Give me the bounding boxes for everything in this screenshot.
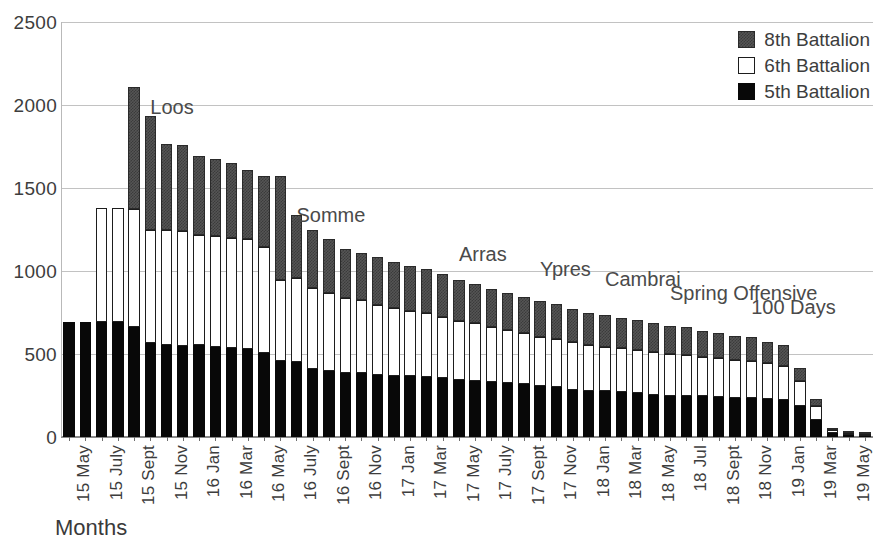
annotation-somme: Somme [296, 205, 365, 225]
battalion-strength-chart: 05001000150020002500 LoosSommeArrasYpres… [0, 0, 884, 550]
bar-segment-6th [226, 238, 237, 348]
bar-segment-8th [437, 274, 448, 316]
legend: 8th Battalion6th Battalion5th Battalion [738, 30, 870, 108]
x-axis-tick-label: 18 Mar [627, 445, 644, 499]
bar-segment-8th [778, 345, 789, 366]
bar-stack [193, 156, 204, 437]
x-axis-tick-mark [475, 437, 476, 441]
bar-segment-6th [632, 350, 643, 393]
bar-segment-8th [551, 304, 562, 339]
bar-stack [128, 87, 139, 437]
bar-segment-5th [810, 420, 821, 437]
x-axis-tick-mark [784, 437, 785, 441]
bar-segment-5th [193, 345, 204, 437]
bar-stack [746, 337, 757, 437]
bar-segment-8th [534, 301, 545, 337]
bar-segment-5th [275, 361, 286, 437]
bar-segment-6th [258, 247, 269, 353]
bar-segment-5th [80, 322, 91, 437]
x-axis: 15 May15 July15 Sept15 Nov16 Jan16 Mar16… [61, 437, 873, 547]
bar-stack [437, 274, 448, 437]
bar-segment-6th [177, 231, 188, 346]
bar-segment-6th [242, 239, 253, 349]
bar-segment-6th [794, 381, 805, 406]
x-axis-tick-label: 18 Jan [595, 445, 612, 497]
annotation-ypres: Ypres [540, 259, 591, 279]
bar-segment-6th [713, 358, 724, 397]
bar-stack [145, 116, 156, 437]
x-axis-tick-mark [361, 437, 362, 441]
x-axis-tick-mark [329, 437, 330, 441]
legend-label: 6th Battalion [764, 56, 870, 75]
y-axis-tick-label: 1500 [0, 179, 57, 198]
bar-segment-8th [258, 176, 269, 247]
bar-stack [616, 318, 627, 438]
bar-stack [275, 176, 286, 437]
annotation-100-days: 100 Days [751, 297, 836, 317]
legend-item: 5th Battalion [738, 82, 870, 101]
bar-segment-5th [534, 386, 545, 437]
bar-stack [388, 262, 399, 437]
x-axis-tick-mark [426, 437, 427, 441]
bar-segment-6th [762, 363, 773, 399]
bar-segment-5th [697, 396, 708, 437]
x-axis-tick-label: 18 May [660, 445, 677, 502]
bar-segment-5th [648, 395, 659, 437]
bar-stack [632, 320, 643, 437]
bar-segment-5th [762, 399, 773, 437]
bar-segment-6th [648, 352, 659, 394]
bar-segment-5th [161, 345, 172, 437]
bar-stack [177, 145, 188, 437]
bar-stack [226, 163, 237, 437]
bar-stack [810, 399, 821, 437]
bar-segment-6th [681, 355, 692, 396]
bar-stack [697, 331, 708, 437]
bar-stack [648, 323, 659, 437]
bar-segment-6th [616, 348, 627, 392]
bar-segment-5th [291, 362, 302, 437]
x-axis-tick-mark [232, 437, 233, 441]
x-axis-tick-mark [589, 437, 590, 441]
x-axis-tick-mark [702, 437, 703, 441]
bar-stack [80, 322, 91, 437]
bar-stack [729, 336, 740, 437]
annotation-arras: Arras [459, 244, 507, 264]
bar-segment-6th [502, 330, 513, 383]
x-axis-title: Months [55, 517, 127, 539]
bar-stack [681, 327, 692, 437]
bar-stack [63, 322, 74, 437]
x-axis-tick-label: 15 Sept [140, 445, 157, 505]
bar-segment-5th [599, 391, 610, 437]
bar-segment-6th [112, 208, 123, 323]
x-axis-tick-mark [654, 437, 655, 441]
x-axis-tick-mark [800, 437, 801, 441]
bar-segment-8th [226, 163, 237, 238]
bar-segment-8th [323, 239, 334, 292]
bar-segment-8th [453, 280, 464, 321]
x-axis-tick-mark [573, 437, 574, 441]
bar-segment-6th [729, 360, 740, 398]
legend-label: 5th Battalion [764, 82, 870, 101]
bar-segment-6th [356, 300, 367, 373]
bar-segment-5th [258, 353, 269, 437]
bar-segment-6th [323, 293, 334, 371]
x-axis-tick-label: 17 Sept [530, 445, 547, 505]
x-axis-tick-label: 19 Jan [790, 445, 807, 497]
bar-stack [307, 230, 318, 437]
bar-segment-8th [356, 253, 367, 300]
bar-stack [502, 293, 513, 437]
bar-segment-8th [307, 230, 318, 287]
x-axis-tick-label: 18 Jul [692, 445, 709, 492]
bar-segment-6th [96, 208, 107, 323]
bar-segment-5th [145, 343, 156, 437]
legend-item: 6th Battalion [738, 56, 870, 75]
bar-segment-6th [404, 311, 415, 377]
x-axis-tick-mark [183, 437, 184, 441]
x-axis-tick-mark [508, 437, 509, 441]
bar-stack [421, 269, 432, 437]
bar-segment-6th [697, 357, 708, 397]
bar-stack [210, 159, 221, 437]
bar-segment-8th [599, 315, 610, 347]
bar-segment-6th [778, 366, 789, 400]
bar-segment-5th [372, 375, 383, 437]
